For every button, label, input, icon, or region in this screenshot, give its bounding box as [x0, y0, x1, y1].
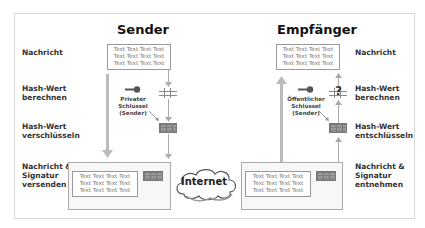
key-arrow: [148, 110, 160, 122]
receiver-main-arrow: [280, 84, 283, 162]
sender-step-message: Nachricht: [22, 48, 63, 57]
receiver-step-compute-hash: Hash-Wert berechnen: [355, 84, 400, 102]
receiver-step-extract: Nachricht & Signatur entnehmen: [355, 162, 405, 189]
internet-label: Internet: [181, 176, 227, 187]
receiver-arrow-from-box: [338, 142, 339, 162]
hash-filled-grid-icon: [159, 123, 177, 133]
sender-step-send: Nachricht & Signatur versenden: [22, 162, 72, 189]
compare-question-mark: ?: [335, 84, 342, 98]
sender-main-arrow: [106, 74, 109, 154]
hash-grid-icon: [159, 88, 177, 98]
sender-title: Sender: [117, 22, 169, 37]
sender-arrow-to-box: [168, 134, 169, 156]
receiver-step-decrypt-hash: Hash-Wert entschlüsseln: [355, 122, 413, 140]
key-arrow: [318, 110, 330, 122]
sender-message-box: Text Text Text Text Text Text Text Text …: [107, 44, 171, 70]
arrow-down-icon: [102, 150, 113, 158]
signature-icon: [143, 171, 163, 181]
key-icon: [298, 86, 314, 93]
hash-filled-grid-icon: [329, 123, 347, 133]
arrow-down-icon: [165, 154, 172, 159]
arrow-up-icon: [276, 76, 287, 84]
sender-arrow-to-encrypt: [168, 99, 169, 119]
sender-step-compute-hash: Hash-Wert berechnen: [22, 84, 67, 102]
arrow-down-icon: [165, 117, 172, 122]
signature-icon: [316, 171, 336, 181]
receiver-message-box: Text Text Text Text Text Text Text Text …: [276, 44, 340, 70]
sender-step-encrypt-hash: Hash-Wert verschlüsseln: [22, 122, 80, 140]
sender-envelope-message: Text Text Text Text Text Text Text Text …: [72, 171, 138, 197]
receiver-step-message: Nachricht: [355, 48, 396, 57]
key-icon: [125, 86, 141, 93]
receiver-envelope-message: Text Text Text Text Text Text Text Text …: [245, 171, 311, 197]
receiver-arrow-to-hash: [338, 105, 339, 123]
receiver-title: Empfänger: [277, 22, 357, 37]
arrow-down-icon: [165, 82, 172, 87]
